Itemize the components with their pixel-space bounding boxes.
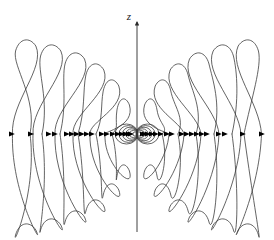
dipole-radiation-figure: z — [0, 0, 274, 240]
field-line-plot: z — [0, 0, 274, 240]
z-axis-label: z — [126, 10, 132, 22]
